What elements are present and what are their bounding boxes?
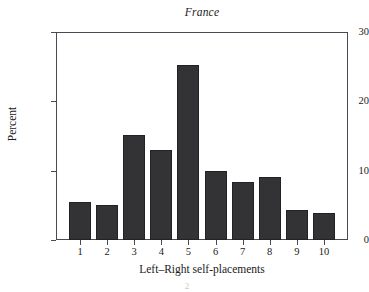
y-tick-label: 0: [335, 235, 369, 246]
y-tick-mark: [51, 32, 56, 33]
x-tick-label: 3: [119, 247, 149, 258]
bar: [205, 171, 227, 240]
y-tick-label: 10: [335, 166, 369, 177]
plot-area: [56, 32, 348, 240]
bar: [123, 135, 145, 240]
bar: [232, 182, 254, 240]
y-tick-label: 30: [335, 27, 369, 38]
chart-figure: France Percent 0102030 12345678910 Left–…: [0, 0, 369, 292]
bar: [96, 205, 118, 240]
x-tick-label: 6: [201, 247, 231, 258]
x-tick-mark: [107, 240, 108, 245]
y-tick-label: 20: [335, 96, 369, 107]
y-tick-mark: [51, 101, 56, 102]
x-tick-mark: [161, 240, 162, 245]
bar: [150, 150, 172, 240]
y-tick-mark: [51, 240, 56, 241]
x-tick-mark: [270, 240, 271, 245]
x-tick-label: 4: [146, 247, 176, 258]
x-tick-label: 9: [282, 247, 312, 258]
x-tick-mark: [216, 240, 217, 245]
x-tick-mark: [80, 240, 81, 245]
x-tick-label: 2: [92, 247, 122, 258]
x-tick-mark: [243, 240, 244, 245]
x-tick-label: 1: [65, 247, 95, 258]
x-tick-mark: [188, 240, 189, 245]
bar: [286, 210, 308, 241]
x-tick-label: 5: [173, 247, 203, 258]
chart-title: France: [56, 6, 348, 18]
x-tick-label: 10: [309, 247, 339, 258]
x-tick-mark: [297, 240, 298, 245]
bar: [177, 65, 199, 240]
bar: [69, 202, 91, 240]
x-tick-label: 7: [228, 247, 258, 258]
x-tick-label: 8: [255, 247, 285, 258]
x-tick-mark: [134, 240, 135, 245]
x-tick-mark: [324, 240, 325, 245]
page-artifact: 2: [182, 283, 192, 290]
bar: [259, 177, 281, 240]
x-axis-title: Left–Right self-placements: [56, 263, 348, 275]
y-tick-mark: [51, 171, 56, 172]
y-axis-title: Percent: [6, 94, 18, 154]
bar: [313, 213, 335, 240]
